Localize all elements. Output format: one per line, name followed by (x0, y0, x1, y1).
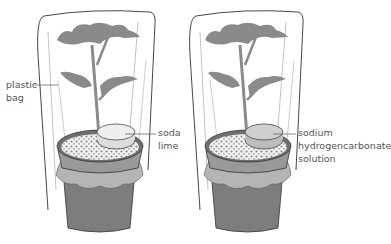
leaf (208, 72, 240, 88)
bag-fold-line (48, 32, 56, 190)
label-soda-lime-line2: lime (158, 140, 178, 152)
label-plastic-bag-line1: plastic (6, 79, 37, 91)
pot-body (64, 182, 134, 232)
label-soda-lime-line1: soda (158, 127, 181, 139)
label-solution-line2: hydrogencarbonate (298, 140, 391, 152)
label-solution-line3: solution (298, 153, 336, 165)
left-setup (34, 11, 156, 232)
solution-dish (245, 124, 283, 140)
soda-lime-dish (97, 124, 135, 140)
leaf (57, 23, 140, 45)
label-solution-line1: sodium (298, 127, 333, 139)
label-plastic-bag-line2: bag (6, 92, 24, 104)
leaf (205, 23, 288, 45)
pot-body (212, 182, 282, 232)
leaf (60, 72, 92, 88)
right-setup (190, 11, 304, 232)
